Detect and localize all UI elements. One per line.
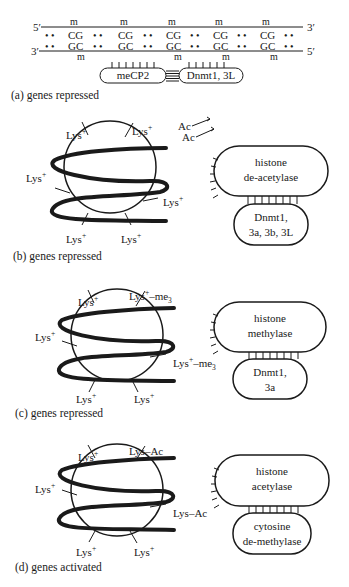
mecp2-dnmt-complex: meCP2 Dnmt1, 3L [100,62,243,83]
spacer-dots: • • [45,30,55,41]
lysine-label-d3: Lys+ [35,481,55,495]
nucleosome-c [59,289,174,392]
enzyme-label: Dnmt1, [254,211,288,223]
nucleosome-d [59,444,174,543]
binding-teeth [210,158,218,198]
linker-bars [248,196,297,204]
methyl-mark: m [222,51,230,62]
bottom-strand-5prime-label: 5′ [307,45,315,57]
top-strand-3prime-label: 3′ [307,21,315,33]
enzyme-complex-d: histone acetylase cytosine de-methylase [211,455,329,554]
spacer-dots: • • [143,41,153,52]
spacer-dots: • • [45,41,55,52]
dnmt1-3l-label: Dnmt1, 3L [187,69,236,81]
enzyme-label: 3a [265,381,276,393]
lysine-label-c1: Lys+ [78,294,98,308]
linker-bars [166,71,179,81]
enzyme-label: 3a, 3b, 3L [249,226,294,238]
dna-wrap [59,308,174,381]
panel-d: Lys+ Lys–Ac Lys+ Lys–Ac Lys+ Lys+ histon… [15,444,329,574]
lysine-label-c5: Lys+ [76,391,96,405]
gc-site: GC [118,40,133,52]
spacer-dots: • • [237,41,247,52]
enzyme-label: de-methylase [243,535,302,547]
lysine-label-b2: Lys+ [132,123,152,137]
enzyme-label: histone [255,156,287,168]
enzyme-label: cytosine [254,520,291,532]
released-acetyl-groups: Ac Ac [178,117,214,143]
enzyme-label: Dnmt1, [253,366,287,378]
lysine-label-d2: Lys–Ac [129,445,163,457]
spacer-dots: • • [93,41,103,52]
lysine-label-b3: Lys+ [26,170,46,184]
mecp2-label: meCP2 [117,69,149,81]
lysine-label-d6: Lys+ [134,544,154,558]
enzyme-label: de-acetylase [244,171,298,183]
methyl-mark: m [262,16,270,27]
figure-canvas: 5′ 3′ m m m m m • • CG • • CG • • CG • •… [0,0,349,587]
enzyme-label: acetylase [252,480,292,492]
panel-c: Lys+ Lys+–me3 Lys+ Lys+–me3 Lys+ Lys+ hi… [15,288,326,420]
bottom-strand-methyl-marks: m m m m [77,51,278,62]
bottom-strand-3prime-label: 3′ [31,45,39,57]
methyl-mark: m [120,16,128,27]
panel-c-caption: (c) genes repressed [15,407,103,420]
methyl-mark: m [174,51,182,62]
enzyme-label: methylase [248,327,293,339]
arrow-icon [196,127,214,137]
panel-a-caption: (a) genes repressed [11,89,99,102]
binding-teeth [112,62,154,68]
panel-d-caption: (d) genes activated [15,561,102,574]
binding-teeth [189,62,224,68]
lysine-label-c6: Lys+ [134,391,154,405]
enzyme-label: histone [256,465,288,477]
spacer-dots: • • [237,30,247,41]
spacer-dots: • • [284,41,294,52]
panel-b-caption: (b) genes repressed [13,250,102,263]
lysine-label-d1: Lys+ [78,449,98,463]
linker-bars [249,506,298,513]
lysine-label-b1: Lys+ [66,127,86,141]
linker-bars [249,352,298,359]
methyl-mark: m [70,16,78,27]
methyl-mark: m [215,16,223,27]
lysine-label-c3: Lys+ [35,329,55,343]
lysine-label-d4: Lys–Ac [173,507,207,519]
enzyme-label: histone [254,312,286,324]
spacer-dots: • • [190,41,200,52]
lysine-label-b4: Lys+ [163,194,183,208]
arrow-icon [192,117,210,126]
dna-wrap [52,148,167,221]
methyl-mark: m [270,51,278,62]
spacer-dots: • • [93,30,103,41]
acetyl-label: Ac [182,131,195,143]
binding-teeth [210,314,218,354]
lysine-label-b5: Lys+ [66,231,86,245]
lysine-label-d5: Lys+ [76,544,96,558]
top-strand-methyl-marks: m m m m m [70,16,270,27]
spacer-dots: • • [284,30,294,41]
methyl-mark: m [168,16,176,27]
lysine-label-b6: Lys+ [121,231,141,245]
top-strand-5prime-label: 5′ [33,21,41,33]
spacer-dots: • • [143,30,153,41]
enzyme-complex-c: histone methylase Dnmt1, 3a [210,302,326,399]
lysine-label-c4: Lys+–me3 [173,355,216,372]
panel-b: Lys+ Lys+ Lys+ Lys+ Lys+ Lys+ Ac Ac hist… [13,117,328,263]
dnmt-protein-c [233,359,307,399]
spacer-dots: • • [190,30,200,41]
methyl-mark: m [77,51,85,62]
enzyme-complex-b: histone de-acetylase Dnmt1, 3a, 3b, 3L [210,146,328,245]
panel-a: 5′ 3′ m m m m m • • CG • • CG • • CG • •… [11,16,315,102]
